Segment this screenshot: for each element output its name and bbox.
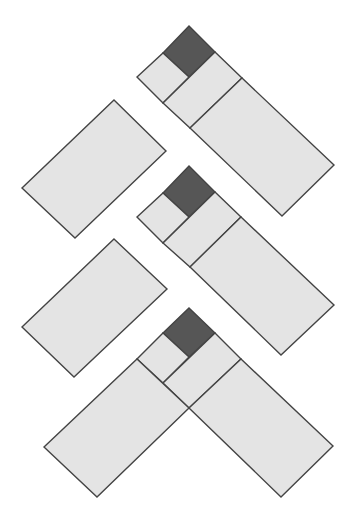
geometric-dissection-diagram	[0, 0, 354, 515]
diagram-canvas	[0, 0, 354, 515]
